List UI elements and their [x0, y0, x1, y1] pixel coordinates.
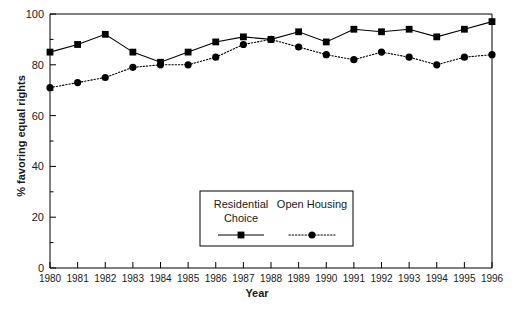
- x-tick-label: 1993: [398, 273, 421, 284]
- data-point-marker: [74, 41, 81, 48]
- data-point-marker: [488, 51, 495, 58]
- x-tick-label: 1981: [67, 273, 90, 284]
- data-point-marker: [489, 18, 496, 25]
- data-point-marker: [102, 74, 109, 81]
- data-point-marker: [295, 28, 302, 35]
- x-tick-label: 1994: [426, 273, 449, 284]
- legend-label-open-housing: Open Housing: [277, 198, 347, 210]
- x-axis-ticks: 1980198119821983198419851986198719881989…: [39, 262, 504, 284]
- x-tick-label: 1991: [343, 273, 366, 284]
- data-point-marker: [461, 26, 468, 33]
- chart-legend: ResidentialChoiceOpen Housing: [200, 191, 353, 246]
- legend-marker-square: [238, 232, 245, 239]
- y-tick-label: 20: [32, 211, 44, 223]
- data-point-marker: [350, 26, 357, 33]
- data-point-marker: [323, 39, 330, 46]
- y-tick-label: 60: [32, 110, 44, 122]
- data-point-marker: [378, 28, 385, 35]
- data-point-marker: [406, 54, 413, 61]
- data-point-marker: [102, 31, 109, 38]
- y-tick-label: 80: [32, 59, 44, 71]
- data-point-marker: [129, 49, 136, 56]
- x-tick-label: 1992: [370, 273, 393, 284]
- data-point-marker: [74, 79, 81, 86]
- legend-marker-circle: [308, 231, 315, 238]
- x-tick-label: 1990: [315, 273, 338, 284]
- data-point-marker: [461, 54, 468, 61]
- y-tick-label: 40: [32, 160, 44, 172]
- data-point-marker: [157, 61, 164, 68]
- data-point-marker: [212, 39, 219, 46]
- chart-figure: % favoring equal rights Year 02040608010…: [0, 0, 514, 311]
- data-point-marker: [47, 49, 54, 56]
- data-point-marker: [185, 61, 192, 68]
- data-point-marker: [185, 49, 192, 56]
- data-point-marker: [240, 41, 247, 48]
- data-point-marker: [378, 49, 385, 56]
- data-point-marker: [406, 26, 413, 33]
- data-point-marker: [295, 43, 302, 50]
- y-tick-label: 100: [26, 8, 44, 20]
- x-tick-label: 1988: [260, 273, 283, 284]
- x-tick-label: 1984: [149, 273, 172, 284]
- data-point-marker: [267, 36, 274, 43]
- legend-label-residential-choice: Residential: [214, 198, 268, 210]
- x-tick-label: 1985: [177, 273, 200, 284]
- data-point-marker: [433, 33, 440, 40]
- x-tick-label: 1983: [122, 273, 145, 284]
- x-tick-label: 1987: [232, 273, 255, 284]
- y-axis-ticks: 020406080100: [26, 8, 56, 274]
- x-tick-label: 1995: [453, 273, 476, 284]
- x-tick-label: 1982: [94, 273, 117, 284]
- data-point-marker: [212, 54, 219, 61]
- x-tick-label: 1996: [481, 273, 504, 284]
- series-open-housing: [46, 36, 495, 91]
- plot-area: 0204060801001980198119821983198419851986…: [0, 0, 514, 311]
- x-tick-label: 1986: [205, 273, 228, 284]
- x-tick-label: 1980: [39, 273, 62, 284]
- x-tick-label: 1989: [288, 273, 311, 284]
- data-point-marker: [240, 33, 247, 40]
- data-point-marker: [433, 61, 440, 68]
- series-line: [50, 39, 492, 87]
- data-point-marker: [129, 64, 136, 71]
- data-point-marker: [323, 51, 330, 58]
- legend-label-residential-choice-line2: Choice: [224, 212, 258, 224]
- data-point-marker: [350, 56, 357, 63]
- data-point-marker: [46, 84, 53, 91]
